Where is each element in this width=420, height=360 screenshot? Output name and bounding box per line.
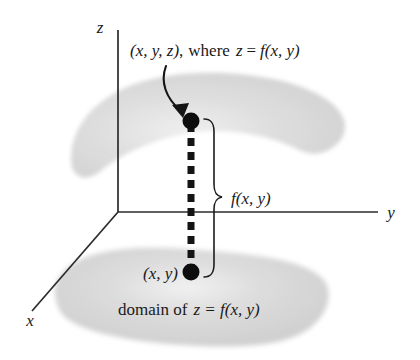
upper-surface-graph-of-f: [71, 73, 345, 178]
domain-label-prefix: domain of: [118, 300, 188, 319]
z-axis-label: z: [96, 18, 104, 37]
x-axis-label: x: [25, 311, 34, 330]
figure-canvas: z y x (x, y, z),wherez=f(x, y) f(x, y) (…: [0, 0, 420, 360]
lower-point-marker: [183, 264, 200, 281]
y-axis-label: y: [385, 203, 395, 222]
upper-point-marker: [183, 113, 200, 130]
height-function-label: f(x, y): [231, 189, 271, 208]
point-3d-eq-lhs: z: [235, 41, 243, 60]
point-3d-eq-rhs: f(x, y): [260, 41, 300, 60]
point-2d-label: (x, y): [143, 264, 178, 283]
diagram-svg: z y x (x, y, z),wherez=f(x, y) f(x, y) (…: [0, 0, 420, 360]
point-3d-where: where: [188, 41, 230, 60]
lower-surface-domain-region: [55, 248, 329, 347]
point-3d-comma: ,: [179, 41, 183, 60]
domain-label-equation: z = f(x, y): [192, 300, 260, 319]
point-3d-coords: (x, y, z): [130, 41, 179, 60]
point-3d-label: (x, y, z),wherez=f(x, y): [130, 41, 300, 60]
point-3d-equals: =: [247, 41, 257, 60]
